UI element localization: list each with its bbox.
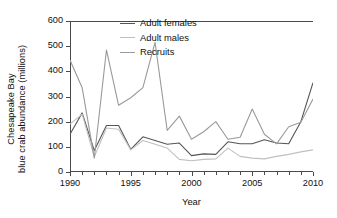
x-tick-mark [179,172,180,175]
x-tick-label: 2000 [172,178,212,188]
x-tick-mark [131,172,132,176]
legend-swatch-adult-males [120,37,135,38]
x-tick-mark [119,172,120,175]
x-tick-label: 2010 [293,178,333,188]
series-line-recruits [70,42,313,158]
series-line-adult-females [70,83,313,156]
x-tick-mark [70,172,71,176]
x-tick-mark [143,172,144,175]
y-tick-mark [66,147,70,148]
x-tick-mark [301,172,302,175]
x-tick-mark [94,172,95,175]
y-tick-mark [66,97,70,98]
crab-abundance-line-chart: Chesapeake Bay blue crab abundance (mill… [0,0,337,218]
y-tick-label: 100 [33,141,63,151]
y-tick-label: 400 [33,65,63,75]
legend-swatch-recruits [120,52,135,53]
legend-label-adult-males: Adult males [140,32,189,44]
x-tick-label: 1990 [50,178,90,188]
legend-item-adult-females: Adult females [120,17,197,29]
x-tick-mark [106,172,107,175]
legend-swatch-adult-females [120,23,135,24]
y-tick-label: 300 [33,91,63,101]
y-tick-mark [66,21,70,22]
x-tick-mark [192,172,193,176]
y-axis-title: Chesapeake Bay blue crab abundance (mill… [0,0,34,218]
legend-item-adult-males: Adult males [120,32,197,44]
legend-label-recruits: Recruits [140,46,174,58]
x-tick-mark [264,172,265,175]
x-tick-mark [313,172,314,176]
y-tick-mark [66,71,70,72]
y-tick-mark [66,46,70,47]
x-tick-mark [82,172,83,175]
x-tick-mark [289,172,290,175]
x-tick-label: 2005 [232,178,272,188]
series-line-adult-males [70,114,313,161]
y-tick-label: 0 [33,166,63,176]
x-tick-mark [155,172,156,175]
x-tick-mark [167,172,168,175]
y-tick-label: 500 [33,40,63,50]
x-tick-mark [204,172,205,175]
y-tick-label: 600 [33,15,63,25]
x-tick-mark [277,172,278,175]
x-axis-title: Year [70,196,313,207]
chart-legend: Adult females Adult males Recruits [120,17,197,58]
legend-label-adult-females: Adult females [140,17,197,29]
x-tick-label: 1995 [111,178,151,188]
x-tick-mark [228,172,229,175]
y-tick-label: 200 [33,116,63,126]
x-tick-mark [216,172,217,175]
x-tick-mark [240,172,241,175]
legend-item-recruits: Recruits [120,46,197,58]
x-tick-mark [252,172,253,176]
y-tick-mark [66,122,70,123]
